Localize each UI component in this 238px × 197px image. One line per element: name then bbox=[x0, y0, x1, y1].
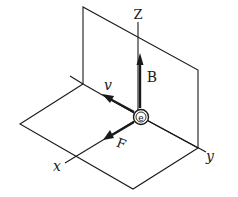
electron-symbol: e bbox=[138, 113, 143, 123]
x-axis-label: x bbox=[53, 158, 61, 174]
y-axis bbox=[141, 117, 206, 152]
vector-v bbox=[102, 94, 134, 112]
F-vector-label: F bbox=[114, 135, 128, 152]
B-vector-label: B bbox=[147, 69, 157, 85]
electron-force-diagram: e Z y x B v F bbox=[0, 0, 238, 197]
v-vector-label: v bbox=[104, 77, 112, 93]
y-axis-back bbox=[70, 76, 83, 84]
y-axis-label: y bbox=[205, 148, 215, 164]
electron-particle: e bbox=[134, 110, 149, 125]
z-axis-label: Z bbox=[133, 7, 142, 22]
